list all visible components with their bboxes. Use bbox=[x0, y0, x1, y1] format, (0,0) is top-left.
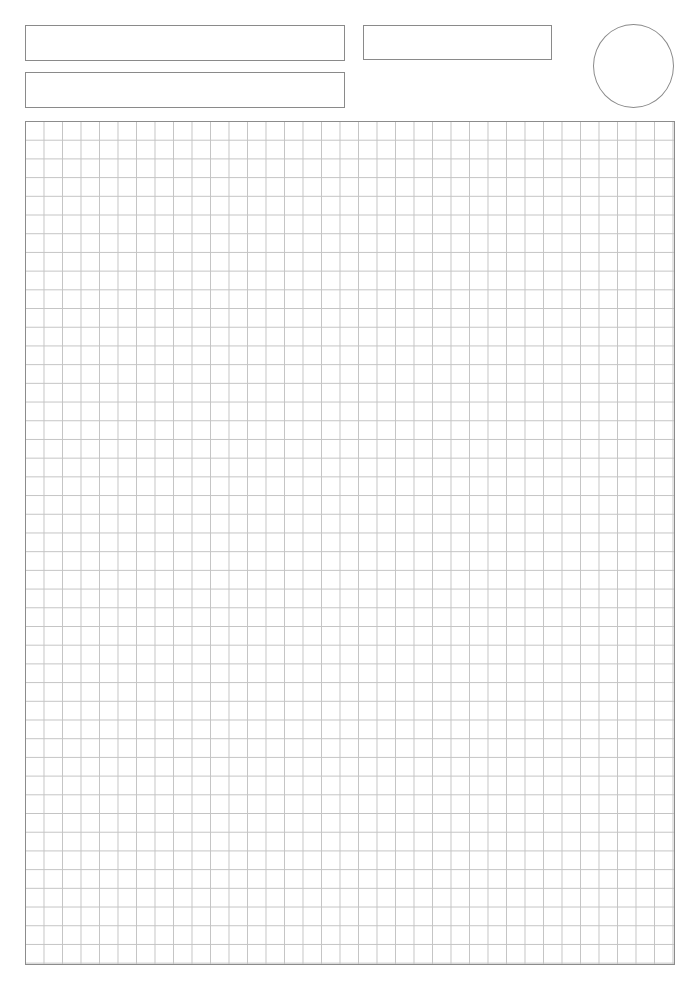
field-top-left[interactable] bbox=[25, 25, 345, 61]
field-top-middle[interactable] bbox=[363, 25, 552, 60]
circle-marker bbox=[593, 24, 674, 108]
field-second-row[interactable] bbox=[25, 72, 345, 108]
graph-paper-grid bbox=[25, 121, 675, 965]
